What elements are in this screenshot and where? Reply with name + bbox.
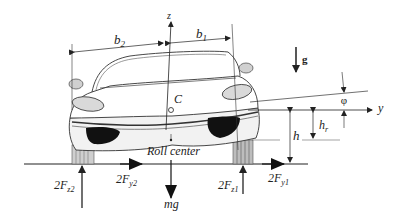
mg-label: mg xyxy=(164,197,179,211)
hr-label: hr xyxy=(319,118,329,134)
force-fy2: 2Fy2 xyxy=(116,164,142,188)
body-tilt-line xyxy=(250,91,368,102)
left-mirror xyxy=(69,79,83,89)
fz2-label: 2Fz2 xyxy=(54,178,74,194)
force-fz2: 2Fz2 xyxy=(54,166,82,208)
roll-model-diagram: z b2 b1 g y φ C h xyxy=(0,0,403,224)
right-mirror xyxy=(239,63,253,73)
fy1-label: 2Fy1 xyxy=(268,171,289,187)
b1-label: b1 xyxy=(196,26,207,43)
phi-angle: φ xyxy=(341,72,347,128)
hr-dimension: hr xyxy=(302,112,340,140)
y-axis: y xyxy=(248,101,384,115)
force-fy1: 2Fy1 xyxy=(262,164,289,187)
fz1-label: 2Fz1 xyxy=(218,178,238,194)
force-mg: mg xyxy=(164,160,179,211)
right-tire xyxy=(233,140,253,164)
h-label: h xyxy=(293,128,300,143)
force-fz1: 2Fz1 xyxy=(218,166,243,194)
phi-label: φ xyxy=(341,94,347,106)
gravity-arrow: g xyxy=(296,47,308,72)
roll-center-label: Roll center xyxy=(146,144,200,158)
gravity-label: g xyxy=(302,53,308,65)
center-of-mass-label: C xyxy=(174,92,183,106)
b2-label: b2 xyxy=(114,32,126,49)
fy2-label: 2Fy2 xyxy=(116,172,137,188)
z-axis-label: z xyxy=(166,10,171,21)
y-axis-label: y xyxy=(377,101,384,115)
